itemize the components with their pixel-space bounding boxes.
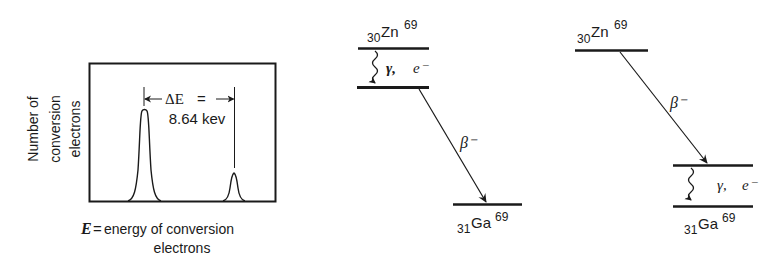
beta-label: β⁻: [669, 94, 688, 112]
electron-label: e⁻: [742, 177, 758, 193]
y-axis-label-line-3: electrons: [67, 101, 83, 158]
delta-e-equals: =: [197, 90, 206, 107]
gamma-label: γ,: [386, 60, 396, 76]
x-axis-label-line-1: energy of conversion: [104, 221, 234, 237]
plot-frame: [90, 64, 276, 202]
parent-nuclide-label: 30Zn69: [577, 18, 628, 46]
gamma-label: γ,: [717, 177, 727, 193]
decay-scheme-b: 30Zn69 β⁻ γ, e⁻ 31Ga69: [575, 18, 758, 237]
y-axis-label-line-1: Number of: [25, 96, 41, 161]
delta-e-value: 8.64 kev: [169, 110, 226, 127]
beta-decay-arrow: [620, 52, 707, 163]
daughter-nuclide-label: 31Ga69: [457, 210, 509, 236]
gamma-transition-wavy-arrow: [689, 168, 694, 200]
gamma-transition-wavy-arrow: [373, 51, 378, 83]
figure-canvas: Number of conversion electrons ΔE = 8.64…: [0, 0, 784, 263]
y-axis-label: Number of conversion electrons: [25, 95, 83, 163]
electron-label: e⁻: [413, 60, 429, 76]
daughter-nuclide-label: 31Ga69: [684, 211, 736, 237]
parent-nuclide-label: 30Zn69: [367, 18, 418, 45]
beta-label: β⁻: [459, 134, 478, 152]
conversion-electron-spectrum: Number of conversion electrons ΔE = 8.64…: [25, 64, 276, 257]
small-peak-curve: [223, 173, 245, 201]
decay-scheme-a: 30Zn69 γ, e⁻ β⁻ 31Ga69: [357, 18, 522, 236]
x-axis-label-equals: =: [93, 220, 102, 237]
x-axis-label-symbol: E: [80, 220, 92, 237]
y-axis-label-line-2: conversion: [47, 95, 63, 163]
x-axis-label-line-2: electrons: [154, 240, 211, 256]
large-peak-curve: [128, 110, 161, 202]
delta-e-symbol: ΔE: [165, 91, 184, 107]
